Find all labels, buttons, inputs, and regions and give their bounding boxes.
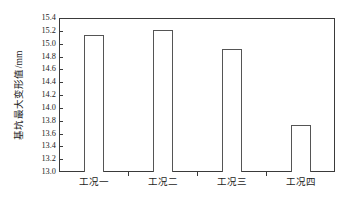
bar (84, 35, 104, 172)
y-axis-tick-mark (59, 159, 63, 160)
bar (222, 49, 242, 172)
y-axis-title-text: 基坑最大变形值/mm (15, 50, 25, 139)
y-axis-tick-label: 15.0 (28, 40, 56, 48)
y-axis-tick-label: 13.2 (28, 155, 56, 163)
y-axis-tick-mark (59, 82, 63, 83)
y-axis-tick-label: 14.0 (28, 104, 56, 112)
y-axis-tick-label: 14.6 (28, 65, 56, 73)
y-axis-tick-label: 15.2 (28, 27, 56, 35)
bar (291, 125, 311, 172)
y-axis-tick-label: 13.8 (28, 117, 56, 125)
bar (153, 30, 173, 172)
bar-chart-figure: 基坑最大变形值/mm 15.415.215.014.814.614.414.21… (0, 0, 353, 198)
y-axis-tick-mark (59, 69, 63, 70)
x-axis-tick-mark (128, 172, 129, 176)
y-axis-tick-mark (59, 44, 63, 45)
y-axis-tick-label: 13.4 (28, 142, 56, 150)
x-axis-category-label: 工况一 (64, 177, 124, 187)
y-axis-tick-mark (59, 57, 63, 58)
y-axis-tick-label: 14.8 (28, 52, 56, 60)
y-axis-tick-label: 14.4 (28, 78, 56, 86)
y-axis-title: 基坑最大变形值/mm (12, 18, 28, 172)
y-axis-tick-label: 14.2 (28, 91, 56, 99)
y-axis-tick-label: 13.6 (28, 129, 56, 137)
y-axis-tick-mark (59, 134, 63, 135)
x-axis-tick-mark (197, 172, 198, 176)
x-axis-category-label: 工况三 (202, 177, 262, 187)
y-axis-tick-mark (59, 108, 63, 109)
x-axis-tick-mark (266, 172, 267, 176)
y-axis-tick-mark (59, 95, 63, 96)
y-axis-tick-mark (59, 31, 63, 32)
y-axis-tick-label: 15.4 (28, 14, 56, 22)
y-axis-tick-label: 13.0 (28, 168, 56, 176)
y-axis-tick-mark (59, 146, 63, 147)
x-axis-category-label: 工况二 (133, 177, 193, 187)
x-axis-category-label: 工况四 (271, 177, 331, 187)
y-axis-tick-mark (59, 121, 63, 122)
